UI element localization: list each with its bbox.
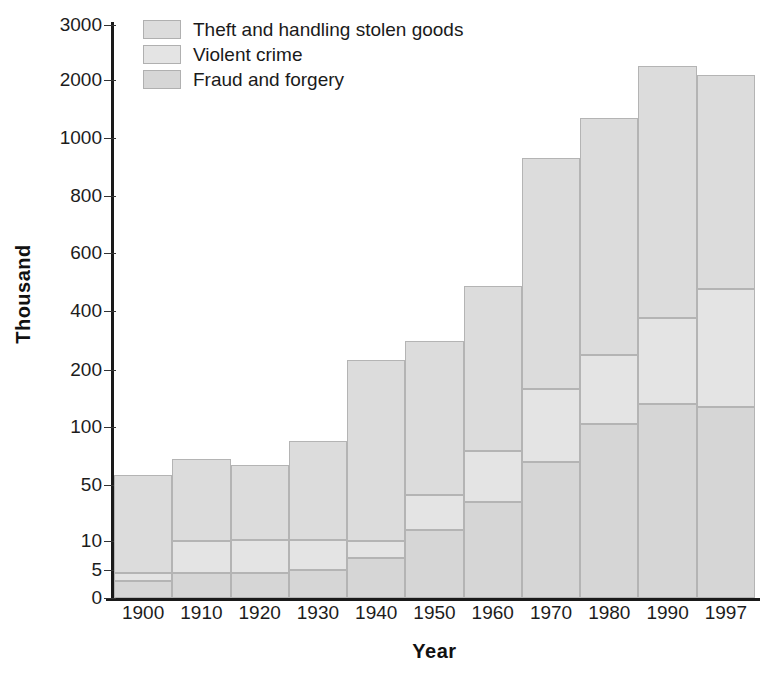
x-axis-tick-label: 1960	[464, 602, 522, 624]
y-axis-tick: 1000	[30, 138, 102, 139]
y-axis-tick-label: 600	[36, 242, 102, 264]
x-axis-tick-label: 1920	[231, 602, 289, 624]
y-axis-tick-mark	[104, 598, 116, 599]
bar-segment[interactable]	[289, 441, 347, 540]
legend-item[interactable]: Theft and handling stolen goods	[143, 17, 543, 42]
y-axis-tick-label: 5	[36, 559, 102, 581]
bar-group-1910[interactable]	[172, 18, 230, 598]
bar-group-1997[interactable]	[697, 18, 755, 598]
x-axis-tick-label: 1900	[114, 602, 172, 624]
bar-segment[interactable]	[697, 75, 755, 290]
bar-segment[interactable]	[347, 541, 405, 558]
y-axis-tick-label: 400	[36, 300, 102, 322]
bar-group-1920[interactable]	[231, 18, 289, 598]
y-axis-tick: 600	[30, 253, 102, 254]
bar-segment[interactable]	[114, 475, 172, 573]
bar-segment[interactable]	[464, 451, 522, 501]
bar-segment[interactable]	[172, 573, 230, 598]
bar-segment[interactable]	[289, 540, 347, 570]
bar-group-1950[interactable]	[405, 18, 463, 598]
y-axis-tick: 0	[30, 598, 102, 599]
bar-segment[interactable]	[405, 530, 463, 598]
x-axis-title: Year	[114, 640, 755, 663]
x-axis-tick-label: 1990	[638, 602, 696, 624]
y-axis-tick: 5	[30, 570, 102, 571]
bar-segment[interactable]	[231, 465, 289, 540]
bar-segment[interactable]	[580, 355, 638, 424]
x-axis-tick-label: 1980	[580, 602, 638, 624]
y-axis-tick: 2000	[30, 80, 102, 81]
y-axis-tick-label: 3000	[36, 14, 102, 36]
y-axis-tick-label: 100	[36, 416, 102, 438]
x-axis-tick-label: 1950	[405, 602, 463, 624]
bar-segment[interactable]	[172, 541, 230, 573]
y-axis-tick: 100	[30, 427, 102, 428]
bar-group-1940[interactable]	[347, 18, 405, 598]
legend-item-label: Fraud and forgery	[193, 69, 344, 91]
legend-item-label: Violent crime	[193, 44, 302, 66]
y-axis-tick-label: 50	[36, 474, 102, 496]
x-axis-tick-label: 1997	[697, 602, 755, 624]
y-axis-tick-label: 200	[36, 359, 102, 381]
x-axis-tick-label: 1930	[289, 602, 347, 624]
legend-swatch-icon	[143, 70, 181, 89]
x-axis-tick-label: 1910	[172, 602, 230, 624]
y-axis-tick-label: 800	[36, 185, 102, 207]
bar-group-1930[interactable]	[289, 18, 347, 598]
bar-segment[interactable]	[464, 502, 522, 598]
crime-statistics-stacked-bar-chart: Thousand Year 30002000100080060040020010…	[0, 0, 767, 676]
bar-group-1990[interactable]	[638, 18, 696, 598]
chart-legend: Theft and handling stolen goodsViolent c…	[143, 17, 543, 92]
x-axis-tick-label: 1970	[522, 602, 580, 624]
legend-item[interactable]: Fraud and forgery	[143, 67, 543, 92]
x-axis-line	[106, 598, 760, 601]
y-axis-tick: 10	[30, 541, 102, 542]
y-axis-tick-label: 2000	[36, 69, 102, 91]
y-axis-tick: 800	[30, 196, 102, 197]
bar-segment[interactable]	[638, 318, 696, 404]
bar-segment[interactable]	[580, 424, 638, 598]
bar-segment[interactable]	[638, 66, 696, 318]
bar-segment[interactable]	[522, 158, 580, 389]
y-axis-tick: 50	[30, 485, 102, 486]
legend-item[interactable]: Violent crime	[143, 42, 543, 67]
legend-item-label: Theft and handling stolen goods	[193, 19, 463, 41]
y-axis-tick: 400	[30, 311, 102, 312]
bar-segment[interactable]	[522, 389, 580, 462]
bar-segment[interactable]	[172, 459, 230, 541]
y-axis-tick: 3000	[30, 25, 102, 26]
bar-segment[interactable]	[114, 573, 172, 581]
bar-group-1900[interactable]	[114, 18, 172, 598]
bar-segment[interactable]	[347, 558, 405, 598]
plot-area	[114, 18, 755, 598]
bar-segment[interactable]	[114, 581, 172, 598]
bar-segment[interactable]	[522, 462, 580, 598]
y-axis-title: Thousand	[6, 214, 40, 374]
bar-segment[interactable]	[638, 404, 696, 598]
bar-group-1980[interactable]	[580, 18, 638, 598]
bar-segment[interactable]	[405, 495, 463, 530]
bar-segment[interactable]	[289, 570, 347, 598]
bar-group-1970[interactable]	[522, 18, 580, 598]
y-axis-tick-label: 10	[36, 530, 102, 552]
bar-segment[interactable]	[464, 286, 522, 451]
x-axis-tick-label: 1940	[347, 602, 405, 624]
bar-segment[interactable]	[697, 289, 755, 407]
y-axis-tick-label: 0	[36, 587, 102, 609]
legend-swatch-icon	[143, 45, 181, 64]
bar-segment[interactable]	[697, 407, 755, 598]
legend-swatch-icon	[143, 20, 181, 39]
bar-segment[interactable]	[580, 118, 638, 356]
bar-segment[interactable]	[231, 540, 289, 573]
bar-segment[interactable]	[405, 341, 463, 495]
y-axis-tick-label: 1000	[36, 127, 102, 149]
bar-segment[interactable]	[231, 573, 289, 598]
y-axis-tick: 200	[30, 370, 102, 371]
bar-segment[interactable]	[347, 360, 405, 541]
bar-group-1960[interactable]	[464, 18, 522, 598]
